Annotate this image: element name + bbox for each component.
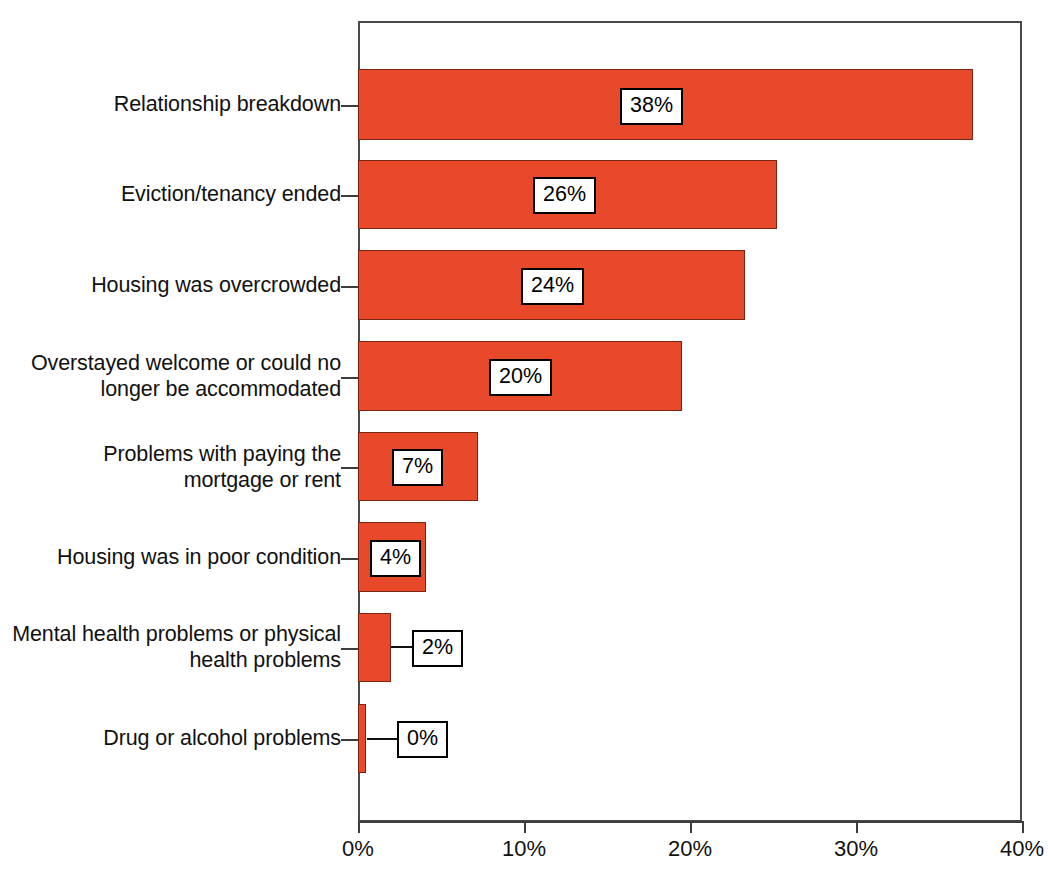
x-axis-tick-label: 30% [811, 836, 901, 862]
x-axis-tick-mark [690, 821, 692, 833]
x-axis-tick-mark [358, 821, 360, 833]
category-label: Drug or alcohol problems [11, 725, 341, 751]
x-axis-tick-mark [1022, 821, 1024, 833]
category-label: Relationship breakdown [11, 91, 341, 117]
bar [358, 613, 391, 682]
x-axis-tick-label: 0% [313, 836, 403, 862]
bar-value-label: 26% [533, 177, 596, 214]
category-tick-mark [341, 648, 358, 650]
x-axis-tick-label: 20% [645, 836, 735, 862]
category-label: Mental health problems or physical healt… [11, 621, 341, 673]
category-label: Problems with paying the mortgage or ren… [11, 441, 341, 493]
category-tick-mark [341, 195, 358, 197]
bar [358, 704, 366, 773]
category-tick-mark [341, 286, 358, 288]
bar-value-label: 4% [370, 540, 421, 577]
x-axis-tick-label: 40% [977, 836, 1048, 862]
category-tick-mark [341, 739, 358, 741]
bar-value-label: 24% [521, 268, 584, 305]
category-tick-mark [341, 105, 358, 107]
bar-value-label: 0% [397, 721, 448, 758]
bar-value-label: 38% [620, 88, 683, 125]
plot-area-frame [358, 21, 1022, 822]
bar-value-label: 7% [392, 449, 443, 486]
value-label-leader-line [367, 738, 398, 740]
category-tick-mark [341, 558, 358, 560]
x-axis-tick-label: 10% [479, 836, 569, 862]
category-label: Overstayed welcome or could no longer be… [11, 350, 341, 402]
bar-value-label: 2% [412, 630, 463, 667]
category-tick-mark [341, 467, 358, 469]
x-axis-tick-mark [856, 821, 858, 833]
x-axis-tick-mark [524, 821, 526, 833]
category-tick-mark [341, 377, 358, 379]
category-label: Housing was in poor condition [11, 544, 341, 570]
category-label: Eviction/tenancy ended [11, 181, 341, 207]
value-label-leader-line [391, 646, 413, 648]
bar-value-label: 20% [489, 359, 552, 396]
category-label: Housing was overcrowded [11, 272, 341, 298]
